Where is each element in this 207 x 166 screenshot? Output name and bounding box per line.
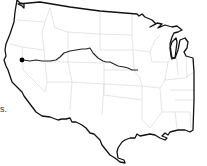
us-map: [0, 0, 207, 166]
coastline-outline: [4, 0, 194, 163]
route-line: [23, 48, 138, 70]
route-start-marker: [20, 58, 25, 63]
caption-fragment: s.: [0, 104, 7, 114]
